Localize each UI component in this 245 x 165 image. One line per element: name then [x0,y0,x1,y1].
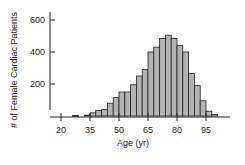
histogram-bar [189,74,195,116]
histogram-bar [200,101,206,116]
y-axis-ticks: 200400600 [30,15,55,89]
x-tick-label: 65 [143,125,153,135]
histogram-bar [171,38,177,116]
histogram-bar [177,46,183,116]
y-tick-label: 200 [30,79,45,89]
histogram-bar [73,116,79,117]
histogram-bar [212,114,218,116]
x-tick-label: 20 [56,125,66,135]
histogram-bar [160,38,166,116]
histogram-bar [165,35,171,116]
histogram-bar [206,111,212,116]
x-tick-label: 80 [172,125,182,135]
histogram-bars [73,35,218,116]
y-tick-label: 600 [30,15,45,25]
histogram-bar [136,76,142,116]
histogram-bar [96,110,102,116]
histogram-bar [125,92,131,116]
histogram-bar [154,47,160,116]
histogram-bar [148,52,154,116]
histogram-bar [102,110,108,116]
histogram-bar [90,113,96,116]
x-axis-title: Age (yr) [117,138,149,148]
y-tick-label: 400 [30,47,45,57]
y-axis-title: # of Female Cardiac Patients [9,11,19,128]
histogram-bar [113,98,119,116]
histogram-bar [107,103,113,116]
histogram-bar [84,115,90,116]
histogram-bar [183,52,189,116]
histogram-bar [131,85,137,116]
x-tick-label: 50 [114,125,124,135]
histogram-bar [194,86,200,116]
x-tick-label: 95 [201,125,211,135]
histogram-bar [142,70,148,116]
histogram-bar [119,92,125,116]
histogram-chart: 200400600 203550658095 Age (yr) # of Fem… [0,0,245,165]
x-tick-label: 35 [85,125,95,135]
